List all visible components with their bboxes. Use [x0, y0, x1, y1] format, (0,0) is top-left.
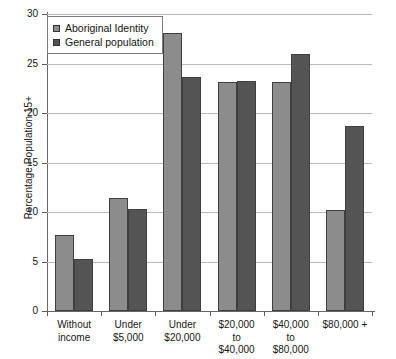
legend-label: Aboriginal Identity	[65, 22, 148, 34]
x-tick-mark	[101, 311, 102, 316]
bar	[128, 209, 147, 311]
y-tick-label: 5	[0, 257, 38, 267]
y-tick-label: 10	[0, 207, 38, 217]
bar	[182, 77, 201, 311]
x-tick-mark	[155, 311, 156, 316]
y-tick-label: 30	[0, 9, 38, 19]
x-tick-mark	[372, 311, 373, 316]
bar	[237, 81, 256, 311]
chart-screenshot: Percentage Population 15+ 051015202530 W…	[0, 0, 396, 359]
y-tick-label: 25	[0, 59, 38, 69]
x-tick-label: Under$20,000	[155, 319, 209, 344]
bar	[218, 82, 237, 311]
gridline	[47, 212, 372, 213]
bar	[55, 235, 74, 311]
gridline	[47, 163, 372, 164]
y-tick-label: 15	[0, 158, 38, 168]
y-tick-label: 20	[0, 108, 38, 118]
legend-swatch-icon	[53, 25, 60, 32]
plot-area	[47, 14, 372, 311]
x-tick-mark	[47, 311, 48, 316]
bar	[345, 126, 364, 311]
gridline	[47, 113, 372, 114]
bar	[326, 210, 345, 311]
legend-swatch-icon	[53, 39, 60, 46]
x-tick-label: Withoutincome	[47, 319, 101, 344]
bar	[272, 82, 291, 311]
bar	[74, 259, 93, 311]
x-tick-label: $20,000to$40,000	[210, 319, 264, 357]
legend-item: Aboriginal Identity	[53, 21, 154, 35]
x-tick-label: $80,000 +	[318, 319, 372, 332]
bar	[291, 54, 310, 311]
gridline	[47, 64, 372, 65]
gridline	[47, 262, 372, 263]
gridline	[47, 14, 372, 15]
y-tick-label: 0	[0, 306, 38, 316]
x-tick-label: $40,000to$80,000	[264, 319, 318, 357]
legend-label: General population	[65, 36, 154, 48]
x-tick-mark	[210, 311, 211, 316]
chart-legend: Aboriginal Identity General population	[47, 16, 163, 54]
bar	[163, 33, 182, 311]
x-tick-mark	[264, 311, 265, 316]
legend-item: General population	[53, 35, 154, 49]
bar	[109, 198, 128, 311]
x-tick-label: Under$5,000	[101, 319, 155, 344]
x-tick-mark	[318, 311, 319, 316]
